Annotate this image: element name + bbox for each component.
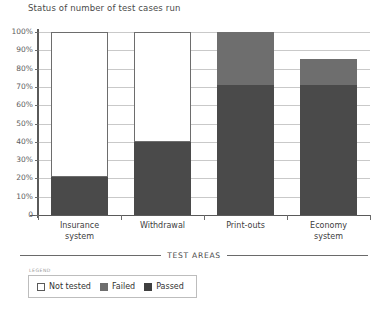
y-axis-tick-mark [35,87,39,88]
bar-group[interactable] [300,32,357,215]
x-axis-line [30,215,371,217]
x-axis-tick [121,215,122,220]
x-axis-category-label: Economy system [287,221,370,242]
bar-segment-failed[interactable] [217,32,274,85]
x-axis-tick [287,215,288,220]
bar-segment-nottested[interactable] [51,32,108,177]
y-axis-tick-label: 60% [16,101,33,109]
y-axis-tick-label: 10% [16,193,33,201]
x-axis-tick [204,215,205,220]
bar-segment-failed[interactable] [300,59,357,85]
legend-box: Not testedFailedPassed [28,275,197,298]
x-axis-title-text: TEST AREAS [167,251,221,260]
axis-title-rule-right [227,255,368,256]
y-axis-tick-mark [35,142,39,143]
y-axis-tick-label: 100% [12,28,33,36]
y-axis-tick-mark [35,197,39,198]
y-axis-tick-label: 20% [16,174,33,182]
legend-item[interactable]: Failed [100,282,135,291]
legend-label: Failed [112,282,135,291]
legend-item[interactable]: Passed [144,282,184,291]
legend-label: Passed [156,282,184,291]
y-axis-tick-mark [35,178,39,179]
bar-group[interactable] [217,32,274,215]
y-axis-tick-label: 30% [16,156,33,164]
x-axis-title: TEST AREAS [20,249,368,261]
y-axis-tick-mark [35,160,39,161]
legend-item[interactable]: Not tested [37,282,91,291]
bar-segment-passed[interactable] [217,85,274,215]
plot-area [38,32,370,215]
x-axis-tick [370,215,371,220]
bar-group[interactable] [134,32,191,215]
y-axis-tick-mark [35,50,39,51]
y-axis-tick-mark [35,69,39,70]
chart-title: Status of number of test cases run [28,3,181,13]
axis-title-rule-left [20,255,161,256]
y-axis-tick-mark [35,215,39,216]
legend-caption: LEGEND [29,268,51,273]
legend-swatch-passed [144,283,152,291]
bar-segment-passed[interactable] [51,177,108,215]
legend-swatch-failed [100,283,108,291]
chart-container: Status of number of test cases run 100%9… [0,0,384,322]
y-axis-tick-mark [35,105,39,106]
bar-segment-passed[interactable] [300,85,357,215]
x-axis-category-label: Withdrawal [121,221,204,232]
legend-swatch-nottested [37,283,45,291]
y-axis-tick-mark [35,124,39,125]
x-axis-category-label: Print-outs [204,221,287,232]
y-axis-tick-label: 80% [16,65,33,73]
x-axis-category-label: Insurance system [38,221,121,242]
y-axis-tick-labels: 100%90%80%70%60%50%40%30%20%10%0 [0,32,33,215]
bar-segment-passed[interactable] [134,142,191,215]
y-axis-tick-mark [35,32,39,33]
y-axis-tick-label: 90% [16,46,33,54]
y-axis-tick-label: 40% [16,138,33,146]
y-axis-tick-label: 50% [16,120,33,128]
bar-group[interactable] [51,32,108,215]
y-axis-tick-label: 70% [16,83,33,91]
bars-layer [38,32,370,215]
legend-label: Not tested [49,282,91,291]
bar-segment-nottested[interactable] [134,32,191,142]
